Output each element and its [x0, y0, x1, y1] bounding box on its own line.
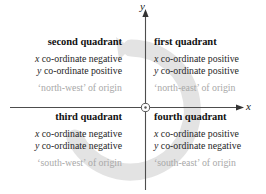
quadrant-third-direction: ‘south-west’ of origin [4, 157, 122, 169]
x-rule-text: co-ordinate negative [39, 128, 122, 139]
quadrant-first-x-rule: x co-ordinate positive [154, 53, 266, 65]
y-rule-text: co-ordinate negative [39, 140, 122, 151]
x-rule-text: co-ordinate positive [158, 53, 239, 64]
quadrant-second-direction: ‘north-west’ of origin [4, 82, 122, 94]
quadrant-second-y-rule: y co-ordinate positive [4, 65, 122, 77]
quadrant-first-direction: ‘north-east’ of origin [154, 82, 266, 94]
quadrant-first-y-rule: y co-ordinate positive [154, 65, 266, 77]
quadrant-fourth-x-rule: x co-ordinate positive [154, 128, 266, 140]
quadrant-third-x-rule: x co-ordinate negative [4, 128, 122, 140]
quadrant-third-y-rule: y co-ordinate negative [4, 140, 122, 152]
y-rule-text: co-ordinate positive [158, 65, 239, 76]
quadrant-fourth: fourth quadrant x co-ordinate positive y… [145, 111, 266, 169]
quadrant-fourth-title: fourth quadrant [154, 111, 266, 123]
x-rule-text: co-ordinate negative [39, 53, 122, 64]
y-rule-text: co-ordinate negative [158, 140, 241, 151]
quadrant-second-title: second quadrant [4, 36, 122, 48]
quadrant-third-title: third quadrant [4, 111, 122, 123]
quadrant-fourth-direction: ‘south-east’ of origin [154, 157, 266, 169]
origin-dot-icon [144, 106, 146, 108]
x-rule-text: co-ordinate positive [158, 128, 239, 139]
y-rule-text: co-ordinate positive [41, 65, 122, 76]
x-axis-arrowhead [236, 105, 244, 111]
quadrants-diagram: y x second quadrant x co-ordinate negati… [0, 0, 266, 194]
quadrant-second: second quadrant x co-ordinate negative y… [4, 36, 131, 94]
y-axis-label: y [140, 1, 145, 12]
quadrant-first-title: first quadrant [154, 36, 266, 48]
quadrant-third: third quadrant x co-ordinate negative y … [4, 111, 131, 169]
quadrant-second-x-rule: x co-ordinate negative [4, 53, 122, 65]
quadrant-fourth-y-rule: y co-ordinate negative [154, 140, 266, 152]
quadrant-first: first quadrant x co-ordinate positive y … [145, 36, 266, 94]
